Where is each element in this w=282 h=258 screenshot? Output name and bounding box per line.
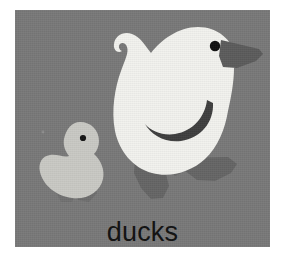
caption-label: ducks <box>15 215 270 247</box>
flashcard-panel: ducks <box>15 10 270 247</box>
adult-duck-beak <box>219 40 263 68</box>
ducks-illustration <box>15 10 270 247</box>
duckling-body <box>39 122 103 198</box>
adult-duck-eye <box>210 41 220 51</box>
flashcard-screenshot: ducks <box>0 0 282 258</box>
duckling-eye <box>80 135 86 141</box>
scan-speck <box>42 131 45 134</box>
